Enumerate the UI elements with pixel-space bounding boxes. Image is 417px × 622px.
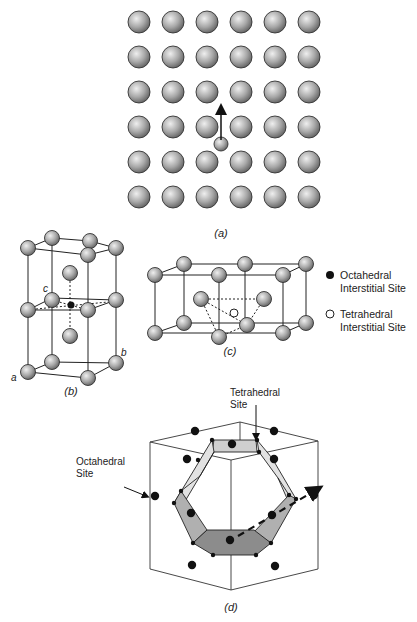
lattice-atom xyxy=(298,151,320,173)
panel-a xyxy=(128,11,320,208)
hcp-atom xyxy=(109,293,124,308)
lattice-atom xyxy=(230,11,252,33)
site-dot xyxy=(226,536,234,544)
site-dot xyxy=(257,450,261,454)
legend-tetrahedral-icon xyxy=(326,310,334,318)
site-dot xyxy=(271,562,279,570)
lattice-atom xyxy=(298,11,320,33)
fcc-atom xyxy=(177,257,192,272)
fcc-atom xyxy=(148,326,163,341)
lattice-atom xyxy=(162,81,184,103)
fcc-atom xyxy=(177,316,192,331)
lattice-atom xyxy=(128,81,150,103)
site-dot xyxy=(287,493,291,497)
legend-octahedral-line1: Octahedral xyxy=(340,269,391,281)
label-tetrahedral-site-2: Site xyxy=(230,399,248,410)
fcc-atom xyxy=(276,326,291,341)
site-dot xyxy=(188,561,196,569)
panel-b-caption: (b) xyxy=(64,385,78,397)
lattice-atom xyxy=(230,151,252,173)
hcp-atom xyxy=(21,365,36,380)
site-dot xyxy=(191,427,199,435)
lattice-atom xyxy=(162,151,184,173)
site-dot xyxy=(255,438,259,442)
panel-c-atoms xyxy=(148,257,314,345)
hcp-atom xyxy=(81,371,96,386)
lattice-atom xyxy=(162,116,184,138)
lattice-atom xyxy=(230,46,252,68)
site-dot xyxy=(269,541,273,545)
fcc-atom xyxy=(240,318,255,333)
hcp-atom xyxy=(45,293,60,308)
legend-octahedral-line2: Interstitial Site xyxy=(340,282,406,294)
lattice-atom xyxy=(128,151,150,173)
axis-label-a: a xyxy=(11,372,17,383)
site-dot xyxy=(294,497,298,501)
axis-label-c: c xyxy=(43,283,48,294)
lattice-atom xyxy=(128,11,150,33)
site-dot xyxy=(228,440,236,448)
tetrahedral-site-dot xyxy=(230,309,238,317)
fcc-atom xyxy=(276,268,291,283)
crystal-interstitial-figure: (a) c b a (b) xyxy=(0,0,417,622)
legend-tetrahedral-line2: Interstitial Site xyxy=(340,321,406,333)
site-dot xyxy=(179,489,183,493)
hcp-atom xyxy=(83,234,98,249)
lattice-atom xyxy=(230,81,252,103)
hcp-atom xyxy=(45,231,60,246)
fcc-atom xyxy=(238,257,253,272)
lattice-atom xyxy=(298,46,320,68)
fcc-atom xyxy=(257,292,272,307)
panel-c-caption: (c) xyxy=(224,345,237,357)
legend-tetrahedral-line1: Tetrahedral xyxy=(340,308,393,320)
octahedral-pointer-arrow xyxy=(124,487,146,496)
lattice-atom xyxy=(128,116,150,138)
site-dot xyxy=(211,553,215,557)
lattice-atom xyxy=(162,46,184,68)
fcc-atom xyxy=(212,268,227,283)
site-dot xyxy=(172,501,176,505)
axis-label-b: b xyxy=(121,347,127,358)
fcc-atom xyxy=(299,316,314,331)
legend: Octahedral Interstitial Site Tetrahedral… xyxy=(326,269,406,333)
panel-a-caption: (a) xyxy=(214,227,228,239)
lattice-atom xyxy=(264,116,286,138)
site-dot xyxy=(187,509,195,517)
lattice-atom xyxy=(264,81,286,103)
lattice-atom xyxy=(196,46,218,68)
site-dot xyxy=(151,492,159,500)
hcp-atom xyxy=(21,241,36,256)
site-dot xyxy=(254,553,258,557)
fcc-atom xyxy=(148,268,163,283)
label-octahedral-site-2: Site xyxy=(76,468,94,479)
lattice-atom xyxy=(162,186,184,208)
site-dot xyxy=(210,438,214,442)
fcc-atom xyxy=(194,292,209,307)
lattice-atom xyxy=(298,116,320,138)
hcp-atom xyxy=(21,303,36,318)
lattice-atom xyxy=(128,46,150,68)
label-tetrahedral-site-1: Tetrahedral xyxy=(230,387,280,398)
lattice-atom xyxy=(264,11,286,33)
lattice-atom xyxy=(264,186,286,208)
panel-d-caption: (d) xyxy=(224,601,238,613)
lattice-atom xyxy=(196,186,218,208)
panel-d xyxy=(124,405,318,590)
lattice-atom xyxy=(298,186,320,208)
hcp-atom xyxy=(81,248,96,263)
lattice-atom xyxy=(298,81,320,103)
hcp-atom xyxy=(81,303,96,318)
site-dot xyxy=(270,427,278,435)
hcp-atom xyxy=(63,266,78,281)
fcc-atom xyxy=(212,330,227,345)
site-dot xyxy=(270,455,278,463)
site-dot xyxy=(196,458,200,462)
hcp-atom xyxy=(45,355,60,370)
lattice-atom xyxy=(128,186,150,208)
site-dot xyxy=(183,455,191,463)
lattice-atom xyxy=(230,116,252,138)
lattice-atom xyxy=(196,151,218,173)
label-octahedral-site-1: Octahedral xyxy=(76,456,125,467)
site-dot xyxy=(191,541,195,545)
hcp-atom xyxy=(63,329,78,344)
